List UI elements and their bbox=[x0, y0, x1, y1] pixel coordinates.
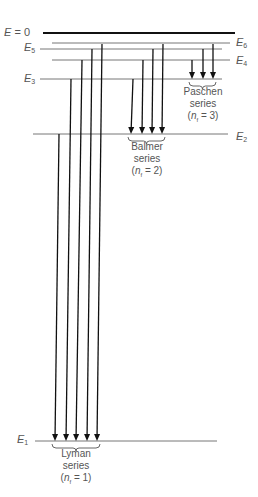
transition-arrow bbox=[66, 79, 71, 434]
transition-arrow bbox=[142, 60, 143, 127]
arrow-head-icon bbox=[52, 434, 58, 441]
arrow-head-icon bbox=[200, 72, 206, 79]
level-label-e1: E1 bbox=[17, 434, 28, 446]
level-label-e3: E3 bbox=[24, 73, 35, 85]
arrow-head-icon bbox=[94, 434, 100, 441]
level-label-e0: E = 0 bbox=[4, 27, 30, 38]
transition-arrow bbox=[76, 60, 82, 434]
transition-arrow bbox=[55, 134, 59, 434]
level-label-e5: E5 bbox=[24, 42, 35, 54]
transition-arrow bbox=[152, 49, 153, 127]
transition-arrow bbox=[97, 44, 102, 434]
lyman-series-label: Lymanseries(nf = 1) bbox=[51, 448, 101, 488]
lyman-series-arrows bbox=[52, 44, 102, 441]
arrow-head-icon bbox=[139, 127, 145, 134]
balmer-series-label: Balmerseries(nf = 2) bbox=[122, 141, 172, 181]
arrow-head-icon bbox=[210, 72, 216, 79]
arrow-head-icon bbox=[128, 127, 134, 134]
transition-arrow bbox=[131, 79, 133, 127]
energy-level-diagram bbox=[0, 0, 258, 497]
level-label-e4: E4 bbox=[236, 55, 247, 67]
balmer-series-arrows bbox=[128, 44, 165, 134]
level-label-e2: E2 bbox=[236, 131, 247, 143]
transition-arrow bbox=[162, 44, 163, 127]
arrow-head-icon bbox=[159, 127, 165, 134]
level-label-e6: E6 bbox=[236, 37, 247, 49]
transition-arrow bbox=[87, 49, 92, 434]
arrow-head-icon bbox=[189, 72, 195, 79]
arrow-head-icon bbox=[149, 127, 155, 134]
arrow-head-icon bbox=[73, 434, 79, 441]
arrow-head-icon bbox=[63, 434, 69, 441]
arrow-head-icon bbox=[84, 434, 90, 441]
paschen-series-label: Paschenseries(nf = 3) bbox=[178, 86, 228, 126]
